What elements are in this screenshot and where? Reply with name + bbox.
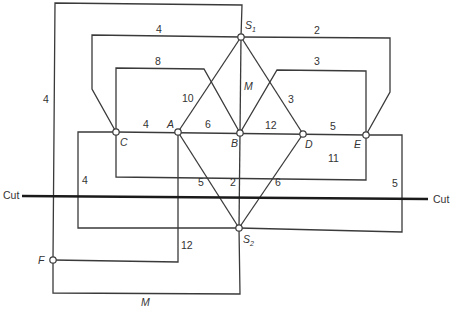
edge-label: M: [244, 80, 253, 92]
edge-label: 6: [275, 176, 281, 188]
edge-label: 12: [265, 119, 277, 131]
label-s2: S2: [243, 233, 254, 247]
edge-label: 3: [314, 55, 320, 67]
cut-label-left: Cut: [3, 189, 19, 201]
edge-c-s2: [78, 132, 239, 228]
edge-label: 6: [205, 118, 211, 130]
edge-label: M: [141, 296, 150, 308]
node-a: [175, 129, 181, 135]
edge-label: 2: [230, 176, 236, 188]
cut-line: [22, 196, 428, 199]
edge-label: 12: [181, 239, 193, 251]
edge-label: 8: [155, 55, 161, 67]
edge-label: 4: [82, 174, 88, 186]
edge-d-s2: [239, 134, 303, 228]
label-f: F: [38, 254, 45, 266]
label-d: D: [305, 138, 313, 150]
node-s1: [238, 34, 244, 40]
edge-c-b: [116, 68, 240, 133]
edge-b-s2: [239, 133, 240, 228]
edge-s1-e: [241, 37, 390, 135]
node-d: [300, 131, 306, 137]
edge-label: 10: [182, 92, 194, 104]
edge-label: 11: [328, 152, 339, 164]
node-c: [113, 129, 119, 135]
edge-label: 4: [43, 93, 49, 105]
label-a: A: [166, 118, 174, 130]
node-f: [50, 257, 56, 263]
edge-s1-b: [240, 37, 241, 133]
edge-label: 4: [143, 118, 149, 130]
edge-label: 5: [330, 120, 336, 132]
edge-label: 3: [288, 93, 294, 105]
label-s1: S1: [245, 19, 256, 33]
edge-label: 5: [198, 176, 204, 188]
edge-label: 5: [392, 177, 398, 189]
edge-label: 4: [156, 23, 162, 35]
label-e: E: [354, 138, 362, 150]
node-b: [237, 130, 243, 136]
label-b: B: [231, 137, 238, 149]
label-c: C: [120, 136, 128, 148]
node-s2: [236, 225, 242, 231]
edge-e-s2: [239, 135, 402, 232]
edge-label: 2: [314, 24, 320, 36]
edge-b-e: [240, 70, 366, 135]
node-e: [363, 132, 369, 138]
cut-label-right: Cut: [433, 193, 449, 205]
network-diagram: S1 S2 A B C D E F 4 4 2 8 3 10 M 3 4 6 1…: [0, 0, 452, 318]
